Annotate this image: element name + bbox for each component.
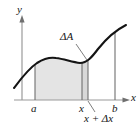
y-axis — [19, 15, 24, 100]
x-plus-delta-x-leader-line — [88, 101, 95, 112]
delta-strip-region — [82, 60, 88, 100]
lower-limit-label-a: a — [31, 103, 37, 114]
main-shaded-area — [35, 58, 82, 100]
area-under-curve-figure — [0, 0, 140, 127]
figure-container: y x a x b x + Δx ΔA — [0, 0, 140, 127]
delta-a-leader-line — [76, 44, 87, 60]
strip-right-label-x-plus-delta-x: x + Δx — [84, 113, 113, 124]
x-axis-label: x — [131, 92, 136, 103]
y-axis-label: y — [17, 4, 22, 15]
area-increment-label-delta-a: ΔA — [60, 31, 73, 42]
